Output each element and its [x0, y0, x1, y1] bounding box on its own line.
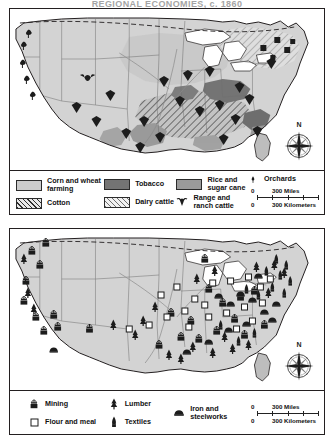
- compass-rose: N: [282, 121, 316, 163]
- scale-miles-start: 0: [251, 187, 258, 194]
- legend-label: Cotton: [47, 199, 70, 207]
- legend-label: Lumber: [125, 400, 151, 408]
- legend-item-tobacco: Tobacco: [104, 179, 176, 190]
- agriculture-map-panel: N: [9, 8, 325, 215]
- cattle-icon: [176, 197, 188, 207]
- scale-bar: [257, 411, 319, 416]
- scale-bar: [257, 195, 319, 200]
- compass-north-label: N: [296, 341, 301, 348]
- legend-label: Rice and sugar cane: [207, 176, 247, 192]
- legend-item-orchards: Orchards: [247, 175, 319, 183]
- legend-label: Iron and steelworks: [190, 405, 247, 421]
- lumber-icon: [108, 398, 120, 410]
- legend-column-4: 0 300 Miles 0 300 Kilometers: [247, 395, 319, 431]
- legend-item-flour-meal: Flour and meal: [28, 418, 108, 427]
- scale-km-end: 300 Kilometers: [272, 201, 316, 208]
- compass-rose: N: [282, 341, 316, 383]
- legend-label: Tobacco: [135, 180, 164, 188]
- compass-north-label: N: [296, 121, 301, 128]
- orchard-icon: [247, 176, 259, 183]
- scale-row-kilometers: 0 300 Kilometers: [251, 417, 319, 424]
- scale-row-miles: 0 300 Miles: [251, 403, 319, 410]
- agriculture-legend: Corn and wheat farming Cotton Tobacco Da: [10, 170, 324, 214]
- land-base: [10, 9, 324, 169]
- legend-item-range-cattle: Range and ranch cattle: [176, 194, 247, 210]
- legend-column-3: Rice and sugar cane Range and ranch catt…: [176, 175, 247, 211]
- scale-miles-end: 300 Miles: [272, 187, 300, 194]
- legend-item-corn-wheat: Corn and wheat farming: [16, 177, 104, 193]
- scale-miles-end: 300 Miles: [272, 403, 300, 410]
- legend-label: Flour and meal: [45, 418, 96, 426]
- florida: [254, 353, 270, 381]
- rice-sugar-swatch: [176, 179, 202, 190]
- compass-rose-icon: [282, 349, 316, 383]
- legend-label: Corn and wheat farming: [47, 177, 104, 193]
- legend-item-mining: Mining: [28, 399, 108, 410]
- florida: [254, 133, 270, 161]
- industry-map-panel: N: [9, 228, 325, 435]
- legend-label: Mining: [45, 400, 68, 408]
- ironworks-icon: [173, 409, 185, 417]
- agriculture-map-graphic: [10, 9, 324, 169]
- scale-km-start: 0: [251, 201, 258, 208]
- legend-item-cotton: Cotton: [16, 198, 104, 209]
- industry-map-graphic: [10, 229, 324, 389]
- agriculture-scale: 0 300 Miles 0 300 Kilometers: [247, 183, 319, 211]
- scale-row-miles: 0 300 Miles: [251, 187, 319, 194]
- legend-label: Textiles: [125, 418, 151, 426]
- land-base: [10, 229, 324, 389]
- legend-column-1: Mining Flour and meal: [16, 395, 108, 431]
- legend-item-dairy-cattle: Dairy cattle: [104, 197, 176, 208]
- legend-column-2: Tobacco Dairy cattle: [104, 175, 176, 211]
- corn-wheat-swatch: [16, 180, 42, 191]
- legend-label: Orchards: [264, 175, 296, 183]
- industry-map-area: N: [10, 229, 324, 389]
- legend-item-rice-sugar: Rice and sugar cane: [176, 176, 247, 192]
- scale-miles-start: 0: [251, 403, 258, 410]
- dairy-cattle-swatch: [104, 197, 130, 208]
- legend-label: Dairy cattle: [135, 198, 174, 206]
- scale-km-end: 300 Kilometers: [272, 417, 316, 424]
- scale-km-start: 0: [251, 417, 258, 424]
- scale-row-kilometers: 0 300 Kilometers: [251, 201, 319, 208]
- legend-column-2: Lumber Textiles: [108, 395, 173, 431]
- industry-scale: 0 300 Miles 0 300 Kilometers: [247, 395, 319, 431]
- textiles-icon: [108, 416, 120, 428]
- compass-rose-icon: [282, 129, 316, 163]
- legend-column-3: Iron and steelworks: [173, 395, 247, 431]
- industry-legend: Mining Flour and meal: [10, 390, 324, 434]
- mining-icon: [28, 399, 40, 410]
- flour-icon: [28, 418, 40, 427]
- tobacco-swatch: [104, 179, 130, 190]
- legend-item-ironworks: Iron and steelworks: [173, 405, 247, 421]
- legend-item-lumber: Lumber: [108, 398, 173, 410]
- cotton-swatch: [16, 198, 42, 209]
- agriculture-map-area: N: [10, 9, 324, 169]
- legend-column-1: Corn and wheat farming Cotton: [16, 175, 104, 211]
- legend-label: Range and ranch cattle: [193, 194, 247, 210]
- map-page: REGIONAL ECONOMIES, c. 1860: [0, 0, 334, 441]
- legend-item-textiles: Textiles: [108, 416, 173, 428]
- legend-column-4: Orchards 0 300 Miles 0 300: [247, 175, 319, 211]
